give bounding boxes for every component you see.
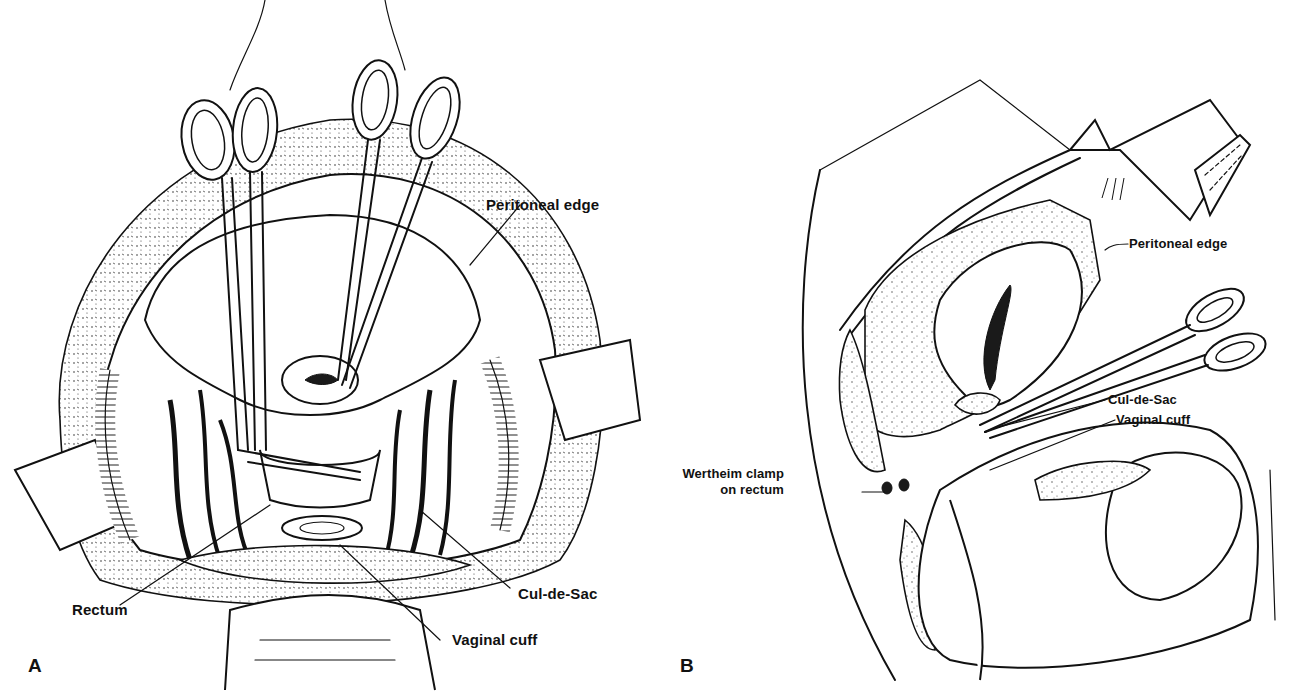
label-wertheim-clamp: Wertheim clamp on rectum xyxy=(660,466,784,498)
label-cul-de-sac-a: Cul-de-Sac xyxy=(518,585,597,602)
label-rectum-a: Rectum xyxy=(72,601,128,618)
panel-letter-b: B xyxy=(680,655,694,677)
label-vaginal-cuff-a: Vaginal cuff xyxy=(452,631,537,648)
panel-a: Peritoneal edge Rectum Cul-de-Sac Vagina… xyxy=(0,0,650,692)
panel-letter-a: A xyxy=(28,655,42,677)
label-wertheim-line1: Wertheim clamp xyxy=(660,466,784,482)
label-vaginal-cuff-b: Vaginal cuff xyxy=(1116,412,1190,427)
label-peritoneal-edge-a: Peritoneal edge xyxy=(486,196,599,213)
label-wertheim-line2: on rectum xyxy=(660,482,784,498)
label-peritoneal-edge-b: Peritoneal edge xyxy=(1129,236,1227,251)
sagittal-section-illustration xyxy=(650,0,1302,692)
panel-b: Peritoneal edge Cul-de-Sac Vaginal cuff … xyxy=(650,0,1302,692)
label-cul-de-sac-b: Cul-de-Sac xyxy=(1108,392,1177,407)
